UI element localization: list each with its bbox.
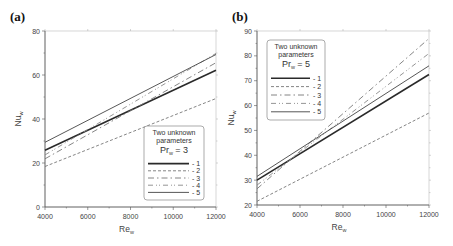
chart-panel-a: (a)0204060804000600080001000012000RewNuw… (10, 9, 226, 235)
legend-label-3: - 3 (192, 175, 200, 182)
y-tick-label: 0 (36, 204, 40, 211)
panel-label: (b) (232, 9, 248, 24)
legend-title-line: Two unknown (275, 43, 318, 50)
legend-label-4: - 4 (313, 100, 321, 107)
legend-title-line: Two unknown (153, 129, 196, 136)
legend: Two unknownparametersPrw = 5- 1- 2- 3- 4… (267, 40, 325, 120)
y-tick-label: 40 (244, 152, 252, 159)
series-line-2 (257, 113, 429, 201)
x-tick-label: 6000 (292, 211, 308, 218)
chart-panel-b: (b)2030405060708090400060008000100001200… (226, 9, 439, 233)
legend-label-3: - 3 (313, 92, 321, 99)
y-tick-label: 80 (244, 52, 252, 59)
legend-title-line: parameters (156, 137, 192, 145)
y-axis-label: Nuw (13, 112, 24, 127)
y-tick-label: 40 (32, 116, 40, 123)
figure: (a)0204060804000600080001000012000RewNuw… (0, 0, 453, 246)
y-tick-label: 50 (244, 127, 252, 134)
y-tick-label: 60 (244, 102, 252, 109)
y-tick-label: 80 (32, 28, 40, 35)
x-tick-label: 4000 (37, 213, 53, 220)
x-tick-label: 8000 (335, 211, 351, 218)
x-tick-label: 12000 (206, 213, 226, 220)
legend-label-5: - 5 (313, 108, 321, 115)
legend-label-2: - 2 (313, 83, 321, 90)
panel-label: (a) (10, 9, 25, 24)
x-tick-label: 10000 (376, 211, 396, 218)
y-tick-label: 90 (244, 28, 252, 35)
legend-label-1: - 1 (313, 75, 321, 82)
legend: Two unknownparametersPrw = 3- 1- 2- 3- 4… (144, 126, 204, 200)
x-axis-label: Rew (119, 224, 134, 235)
x-tick-label: 8000 (123, 213, 139, 220)
x-tick-label: 10000 (164, 213, 184, 220)
y-tick-label: 20 (32, 160, 40, 167)
legend-label-4: - 4 (192, 182, 200, 189)
y-tick-label: 30 (244, 177, 252, 184)
x-tick-label: 12000 (419, 211, 439, 218)
legend-param: Prw = 3 (160, 145, 188, 156)
x-tick-label: 6000 (80, 213, 96, 220)
legend-label-1: - 1 (192, 160, 200, 167)
y-tick-label: 60 (32, 72, 40, 79)
y-tick-label: 70 (244, 77, 252, 84)
x-axis-label: Rew (332, 222, 347, 233)
y-tick-label: 20 (244, 202, 252, 209)
legend-title-line: parameters (278, 51, 314, 59)
legend-label-5: - 5 (192, 189, 200, 196)
legend-param: Prw = 5 (282, 59, 310, 70)
legend-label-2: - 2 (192, 167, 200, 174)
y-axis-label: Nuw (226, 111, 237, 126)
x-tick-label: 4000 (249, 211, 265, 218)
